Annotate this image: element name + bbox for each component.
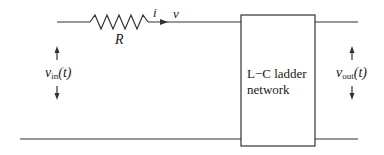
vin-subscript: in bbox=[51, 71, 58, 81]
resistor bbox=[90, 15, 148, 29]
output-voltage-label: vout(t) bbox=[336, 66, 367, 80]
vin-up-arrowhead-icon bbox=[55, 46, 60, 53]
network-label-line2: network bbox=[247, 83, 290, 96]
vout-arg: (t) bbox=[354, 65, 367, 80]
node-voltage-label: v bbox=[173, 7, 179, 20]
vin-down-arrowhead-icon bbox=[55, 93, 60, 100]
resistor-label: R bbox=[115, 33, 124, 47]
vout-up-arrowhead-icon bbox=[350, 46, 355, 53]
network-label-line1: L−C ladder bbox=[247, 67, 307, 80]
current-label: i bbox=[153, 6, 157, 19]
vin-arg: (t) bbox=[58, 65, 71, 80]
vout-subscript: out bbox=[342, 71, 354, 81]
vout-down-arrowhead-icon bbox=[350, 93, 355, 100]
current-arrow-icon bbox=[160, 19, 168, 25]
input-voltage-label: vin(t) bbox=[45, 66, 71, 80]
